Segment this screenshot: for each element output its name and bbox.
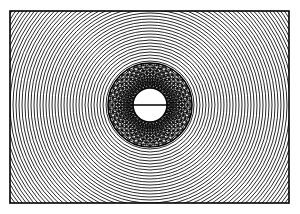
figure-root — [0, 0, 300, 214]
ring-diagram — [0, 0, 300, 214]
